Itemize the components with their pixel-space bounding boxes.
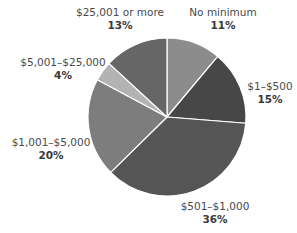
label-no-minimum: No minimum 11% [183, 6, 263, 32]
label-percent: 4% [18, 69, 108, 82]
label-percent: 15% [245, 93, 295, 106]
pie-slices [88, 38, 246, 196]
label-name: $5,001–$25,000 [18, 56, 108, 69]
label-1-500: $1–$500 15% [245, 80, 295, 106]
label-1001-5000: $1,001–$5,000 20% [10, 136, 92, 162]
label-name: $501–$1,000 [170, 200, 260, 213]
label-percent: 11% [183, 19, 263, 32]
label-percent: 36% [170, 213, 260, 226]
label-name: No minimum [183, 6, 263, 19]
label-25001-or-more: $25,001 or more 13% [75, 6, 165, 32]
label-percent: 13% [75, 19, 165, 32]
label-name: $1–$500 [245, 80, 295, 93]
label-percent: 20% [10, 149, 92, 162]
label-501-1000: $501–$1,000 36% [170, 200, 260, 226]
label-name: $1,001–$5,000 [10, 136, 92, 149]
pie-chart [0, 0, 297, 233]
label-name: $25,001 or more [75, 6, 165, 19]
label-5001-25000: $5,001–$25,000 4% [18, 56, 108, 82]
